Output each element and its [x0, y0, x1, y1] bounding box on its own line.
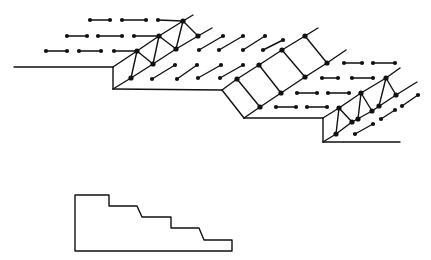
middle-frame-node	[324, 60, 329, 65]
bar-node	[371, 76, 375, 80]
bar-node	[315, 91, 319, 95]
dumbbell-bars	[44, 18, 420, 136]
left-truss-member	[137, 51, 153, 64]
middle-frame-node	[256, 62, 261, 67]
bar-node	[371, 122, 375, 126]
right-truss-node	[369, 108, 374, 113]
bar-node	[326, 91, 330, 95]
right-truss-node	[355, 116, 360, 121]
bar-node	[379, 117, 383, 121]
middle-frame-node	[257, 104, 262, 109]
middle-frame-node	[279, 47, 284, 52]
left-truss-node	[173, 46, 178, 51]
bar-node	[196, 76, 200, 80]
bar-node	[294, 105, 298, 109]
terrain-line	[113, 89, 222, 90]
bar-node	[218, 76, 222, 80]
left-truss-node	[150, 61, 155, 66]
bar-node	[88, 18, 92, 22]
stepped-terrain-diagram	[0, 0, 431, 260]
bar-node	[99, 49, 103, 53]
bar-node	[156, 18, 160, 22]
left-truss-node	[195, 33, 200, 38]
bar-node	[241, 48, 245, 52]
bar-node	[120, 34, 124, 38]
middle-frame-node	[278, 90, 283, 95]
bar-element	[219, 36, 243, 50]
bar-node	[108, 18, 112, 22]
right-truss-member	[386, 78, 396, 95]
right-truss-node	[336, 105, 341, 110]
bar-node	[77, 49, 81, 53]
left-truss-node	[156, 33, 161, 38]
diagram-canvas	[0, 0, 431, 260]
right-truss-node	[349, 119, 354, 124]
bar-node	[173, 63, 177, 67]
bar-node	[400, 104, 404, 108]
bar-node	[263, 34, 267, 38]
bar-node	[274, 105, 278, 109]
bar-node	[325, 105, 329, 109]
right-truss-node	[333, 131, 338, 136]
bar-node	[96, 34, 100, 38]
middle-frame-member	[282, 50, 305, 77]
middle-frame-member	[305, 36, 327, 63]
middle-frame-node	[234, 76, 239, 81]
bar-node	[393, 61, 397, 65]
bar-element	[381, 110, 395, 119]
bar-element	[402, 95, 418, 106]
bar-element	[355, 124, 373, 134]
bar-node	[416, 93, 420, 97]
bar-node	[195, 63, 199, 67]
right-truss-member	[339, 108, 352, 122]
bar-element	[243, 36, 265, 50]
bar-node	[219, 63, 223, 67]
bar-node	[44, 49, 48, 53]
bar-node	[305, 105, 309, 109]
right-truss-member	[358, 93, 361, 119]
bar-node	[144, 18, 148, 22]
bar-node	[347, 91, 351, 95]
bar-node	[336, 76, 340, 80]
bar-node	[175, 77, 179, 81]
left-truss-member	[159, 36, 176, 49]
bar-node	[353, 132, 357, 136]
left-truss-member	[183, 21, 198, 36]
bar-node	[360, 61, 364, 65]
bar-element	[220, 65, 243, 78]
middle-frame-node	[302, 74, 307, 79]
bar-node	[120, 18, 124, 22]
profile-outline	[75, 195, 232, 251]
right-truss-node	[376, 103, 381, 108]
bar-node	[320, 76, 324, 80]
terrain-line	[222, 90, 244, 118]
right-truss-node	[393, 92, 398, 97]
bar-node	[350, 76, 354, 80]
stepped-profile-outline	[75, 195, 232, 251]
bar-node	[132, 34, 136, 38]
bar-node	[221, 34, 225, 38]
bar-node	[281, 38, 285, 42]
middle-frame-member	[259, 65, 281, 93]
left-truss-node	[180, 18, 185, 23]
right-truss-node	[358, 90, 363, 95]
bar-node	[65, 34, 69, 38]
bar-node	[150, 77, 154, 81]
right-truss-member	[361, 93, 372, 111]
bar-element	[152, 65, 175, 79]
left-truss-node	[128, 75, 133, 80]
bar-node	[112, 49, 116, 53]
bar-element	[199, 36, 223, 50]
bar-element	[198, 65, 221, 78]
bar-element	[177, 65, 197, 79]
bar-node	[217, 48, 221, 52]
bar-node	[342, 61, 346, 65]
left-truss-node	[134, 48, 139, 53]
bar-node	[197, 48, 201, 52]
bar-node	[241, 34, 245, 38]
bar-element	[158, 20, 183, 21]
bar-node	[393, 108, 397, 112]
bar-node	[85, 34, 89, 38]
bar-node	[241, 63, 245, 67]
bar-node	[295, 91, 299, 95]
